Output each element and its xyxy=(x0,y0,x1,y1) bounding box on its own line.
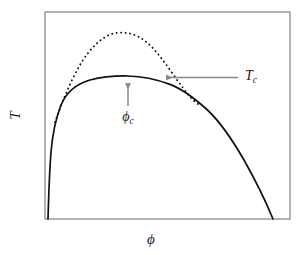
phic-label-subscript: c xyxy=(130,116,134,126)
y-axis-label: T xyxy=(8,111,23,119)
x-axis-label: ϕ xyxy=(147,232,155,247)
tc-label-subscript: c xyxy=(253,75,257,85)
tc-label-main: T xyxy=(245,68,253,83)
plot-canvas xyxy=(0,0,303,255)
binodal-curve xyxy=(48,76,273,219)
y-axis-label-text: T xyxy=(7,111,23,119)
phic-annotation-label: ϕc xyxy=(122,110,133,126)
tc-annotation-label: Tc xyxy=(245,69,257,85)
x-axis-label-text: ϕ xyxy=(147,231,155,247)
plot-frame xyxy=(45,12,290,219)
phase-diagram-figure: T ϕ Tc ϕc xyxy=(0,0,303,255)
